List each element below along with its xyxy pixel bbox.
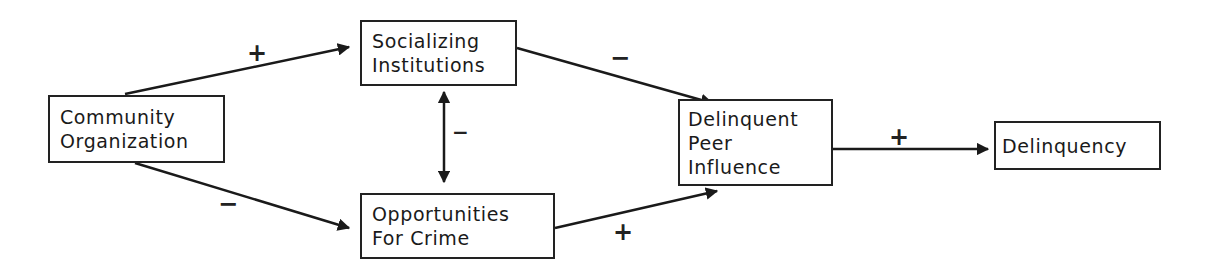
node-label-line: Community <box>60 105 213 129</box>
node-opportunities-for-crime: Opportunities For Crime <box>360 193 555 259</box>
node-delinquent-peer-influence: Delinquent Peer Influence <box>678 99 833 186</box>
node-label-line: Delinquent <box>688 107 821 131</box>
node-label-line: Influence <box>688 155 821 179</box>
node-label-line: Organization <box>60 129 213 153</box>
edge-sign-community-socializing: + <box>247 41 267 65</box>
node-label-line: Institutions <box>372 53 505 77</box>
node-label-line: Socializing <box>372 29 505 53</box>
node-label-line: For Crime <box>372 226 543 250</box>
node-community-organization: Community Organization <box>48 95 225 163</box>
node-label-line: Opportunities <box>372 202 543 226</box>
edge-sign-socializing-opportunities: − <box>452 120 469 144</box>
edge-opportunities-to-peer <box>555 191 717 228</box>
edge-sign-socializing-peer: − <box>610 46 630 70</box>
node-label-line: Peer <box>688 131 821 155</box>
edge-community-to-opportunities <box>135 163 349 228</box>
node-socializing-institutions: Socializing Institutions <box>360 20 517 86</box>
edge-sign-opportunities-peer: + <box>613 220 633 244</box>
node-delinquency: Delinquency <box>994 121 1161 170</box>
edge-sign-community-opportunities: − <box>218 192 238 216</box>
node-label-line: Delinquency <box>1002 134 1149 158</box>
edge-community-to-socializing <box>125 47 349 94</box>
edge-sign-peer-delinquency: + <box>889 125 909 149</box>
